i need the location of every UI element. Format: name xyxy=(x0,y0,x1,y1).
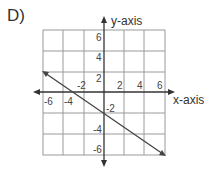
x-tick-6: 6 xyxy=(157,80,163,91)
y-tick-neg2: -2 xyxy=(106,103,115,114)
y-axis-up-arrow-icon xyxy=(101,16,107,23)
x-tick-2: 2 xyxy=(117,80,123,91)
x-tick-neg2: -2 xyxy=(77,80,86,91)
y-axis-down-arrow-icon xyxy=(101,160,107,167)
y-tick-4: 4 xyxy=(96,52,102,63)
y-tick-neg6: -6 xyxy=(93,144,102,155)
x-axis-left-arrow-icon xyxy=(33,89,40,95)
y-tick-2: 2 xyxy=(96,73,102,84)
y-tick-6: 6 xyxy=(96,32,102,43)
x-axis-label: x-axis xyxy=(173,93,204,107)
coordinate-plane: -6 -4 -2 2 4 6 6 4 2 -2 -4 -6 y-axis x-a… xyxy=(0,0,204,179)
y-axis-label: y-axis xyxy=(111,14,142,28)
x-tick-4: 4 xyxy=(137,80,143,91)
x-tick-neg6: -6 xyxy=(44,96,53,107)
x-tick-neg4: -4 xyxy=(64,96,73,107)
axes xyxy=(38,21,170,162)
y-tick-neg4: -4 xyxy=(93,124,102,135)
